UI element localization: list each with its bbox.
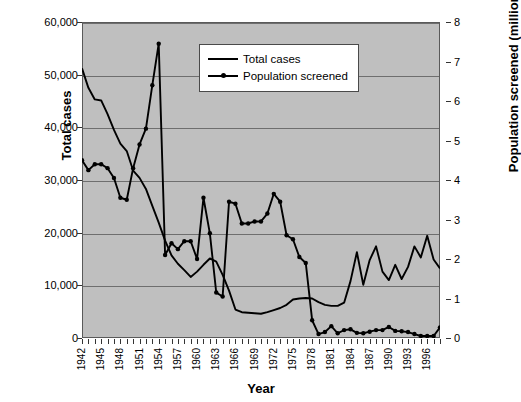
- series-marker: [188, 239, 192, 243]
- x-axis-tick-label: 1978: [307, 348, 317, 370]
- y-axis-right-tick-label: 0: [454, 333, 476, 343]
- y-axis-right-title: Population screened (millions): [506, 0, 521, 193]
- x-axis-tick-label: 1984: [346, 348, 356, 370]
- series-marker: [214, 290, 218, 294]
- x-axis-tick: [255, 339, 256, 344]
- y-axis-right-tick-label: 7: [454, 57, 476, 67]
- y-axis-right: 012345678: [446, 0, 470, 338]
- series-marker: [201, 196, 205, 200]
- y-axis-right-tick: [446, 299, 451, 300]
- series-marker: [182, 239, 186, 243]
- x-axis-tick: [299, 339, 300, 344]
- legend-line-marker-icon: [206, 70, 240, 82]
- y-axis-right-tick: [446, 22, 451, 23]
- x-axis-tick: [287, 339, 288, 344]
- x-axis-tick: [120, 339, 121, 344]
- x-axis-title: Year: [82, 381, 440, 396]
- y-axis-right-tick-label: 3: [454, 215, 476, 225]
- series-marker: [157, 42, 161, 46]
- x-axis-tick-label: 1975: [288, 348, 298, 370]
- x-axis-tick-label: 1942: [77, 348, 87, 370]
- x-axis-tick: [402, 339, 403, 344]
- x-axis-tick: [95, 339, 96, 344]
- x-axis-tick: [223, 339, 224, 344]
- series-marker: [112, 176, 116, 180]
- x-axis-tick-label: 1966: [230, 348, 240, 370]
- x-axis-tick: [325, 339, 326, 344]
- series-line-total-cases: [82, 68, 440, 313]
- series-marker: [227, 200, 231, 204]
- series-marker: [93, 162, 97, 166]
- x-axis-tick: [421, 339, 422, 344]
- y-axis-right-tick: [446, 62, 451, 63]
- series-marker: [176, 247, 180, 251]
- x-axis-tick: [389, 339, 390, 344]
- series-marker: [233, 202, 237, 206]
- x-axis-tick: [338, 339, 339, 344]
- x-axis-tick: [146, 339, 147, 344]
- y-axis-right-tick-label: 2: [454, 254, 476, 264]
- y-axis-right-tick-label: 4: [454, 175, 476, 185]
- y-axis-right-tick: [446, 141, 451, 142]
- x-axis-tick: [101, 339, 102, 344]
- x-axis-tick-label: 1987: [365, 348, 375, 370]
- x-axis-tick: [357, 339, 358, 344]
- series-marker: [105, 166, 109, 170]
- x-axis-tick: [319, 339, 320, 344]
- x-axis-tick: [172, 339, 173, 344]
- x-axis-tick: [344, 339, 345, 344]
- x-axis-tick: [82, 339, 83, 344]
- series-marker: [310, 318, 314, 322]
- x-axis-tick-label: 1957: [173, 348, 183, 370]
- x-axis-tick-label: 1954: [154, 348, 164, 370]
- x-axis-tick-label: 1963: [211, 348, 221, 370]
- x-axis-tick: [197, 339, 198, 344]
- series-marker: [367, 329, 371, 333]
- legend-label: Total cases: [240, 53, 301, 65]
- series-marker: [412, 332, 416, 336]
- series-marker: [425, 334, 429, 338]
- series-marker: [195, 257, 199, 261]
- series-marker: [348, 327, 352, 331]
- x-axis-tick: [293, 339, 294, 344]
- x-axis-tick: [184, 339, 185, 344]
- x-axis-tick: [370, 339, 371, 344]
- x-axis-tick-label: 1945: [96, 348, 106, 370]
- series-marker: [336, 331, 340, 335]
- y-axis-right-tick: [446, 220, 451, 221]
- y-axis-right-tick-label: 5: [454, 136, 476, 146]
- y-axis-right-tick: [446, 101, 451, 102]
- x-axis-tick: [306, 339, 307, 344]
- series-marker: [419, 334, 423, 338]
- series-marker: [131, 166, 135, 170]
- series-marker: [323, 330, 327, 334]
- x-axis-tick-label: 1981: [326, 348, 336, 370]
- series-marker: [406, 330, 410, 334]
- series-marker: [291, 237, 295, 241]
- series-marker: [284, 233, 288, 237]
- series-marker: [240, 221, 244, 225]
- series-marker: [272, 192, 276, 196]
- y-axis-right-tick: [446, 180, 451, 181]
- legend-item-population-screened: Population screened: [206, 67, 352, 84]
- series-marker: [342, 328, 346, 332]
- x-axis-tick: [88, 339, 89, 344]
- x-axis-tick: [229, 339, 230, 344]
- series-marker: [399, 329, 403, 333]
- x-axis-tick-label: 1969: [250, 348, 260, 370]
- x-axis-ticks: [82, 339, 440, 347]
- series-marker: [297, 255, 301, 259]
- y-axis-left-tick-label: 10,000: [20, 280, 78, 290]
- x-axis-tick: [140, 339, 141, 344]
- x-axis-tick: [363, 339, 364, 344]
- x-axis-tick-label: 1948: [115, 348, 125, 370]
- x-axis-tick: [127, 339, 128, 344]
- series-marker: [137, 142, 141, 146]
- x-axis-tick: [427, 339, 428, 344]
- series-marker: [329, 324, 333, 328]
- x-axis-tick-label: 1960: [192, 348, 202, 370]
- series-marker: [278, 200, 282, 204]
- x-axis-tick: [267, 339, 268, 344]
- x-axis-tick: [248, 339, 249, 344]
